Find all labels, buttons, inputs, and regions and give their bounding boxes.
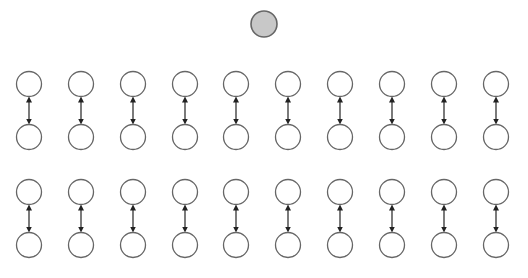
node-pair — [173, 72, 198, 150]
bottom-node — [328, 233, 353, 258]
bottom-node — [380, 125, 405, 150]
node-pair — [380, 72, 405, 150]
top-node — [121, 180, 146, 205]
top-node — [328, 180, 353, 205]
root-node — [251, 11, 277, 37]
bottom-node — [276, 233, 301, 258]
top-node — [380, 180, 405, 205]
top-node — [328, 72, 353, 97]
top-node — [224, 180, 249, 205]
lower-row — [17, 180, 509, 258]
top-node — [380, 72, 405, 97]
top-node — [121, 72, 146, 97]
node-pair — [17, 180, 42, 258]
top-node — [432, 72, 457, 97]
node-pair — [484, 72, 509, 150]
bottom-node — [380, 233, 405, 258]
bottom-node — [484, 233, 509, 258]
bottom-node — [17, 233, 42, 258]
top-node — [224, 72, 249, 97]
top-node — [432, 180, 457, 205]
node-pair — [328, 72, 353, 150]
node-pair — [17, 72, 42, 150]
top-node — [17, 180, 42, 205]
top-node — [17, 72, 42, 97]
top-node — [69, 72, 94, 97]
node-pair — [224, 180, 249, 258]
top-node — [173, 180, 198, 205]
bottom-node — [276, 125, 301, 150]
node-pair — [328, 180, 353, 258]
node-pair — [69, 180, 94, 258]
bottom-node — [328, 125, 353, 150]
top-node — [484, 180, 509, 205]
node-pair — [173, 180, 198, 258]
bottom-node — [121, 233, 146, 258]
node-pair — [276, 72, 301, 150]
bottom-node — [432, 125, 457, 150]
node-pair — [121, 72, 146, 150]
bottom-node — [121, 125, 146, 150]
top-node — [484, 72, 509, 97]
top-node — [276, 72, 301, 97]
node-pair — [380, 180, 405, 258]
bottom-node — [224, 233, 249, 258]
diagram-canvas — [0, 0, 528, 278]
top-node — [276, 180, 301, 205]
bottom-node — [17, 125, 42, 150]
node-pair — [432, 180, 457, 258]
bottom-node — [432, 233, 457, 258]
node-pair — [224, 72, 249, 150]
node-pair — [276, 180, 301, 258]
node-pair — [69, 72, 94, 150]
node-pair — [432, 72, 457, 150]
top-node — [69, 180, 94, 205]
node-pair — [484, 180, 509, 258]
bottom-node — [69, 233, 94, 258]
bottom-node — [484, 125, 509, 150]
bottom-node — [224, 125, 249, 150]
top-node — [173, 72, 198, 97]
bottom-node — [69, 125, 94, 150]
node-pair — [121, 180, 146, 258]
upper-row — [17, 72, 509, 150]
bottom-node — [173, 125, 198, 150]
bottom-node — [173, 233, 198, 258]
